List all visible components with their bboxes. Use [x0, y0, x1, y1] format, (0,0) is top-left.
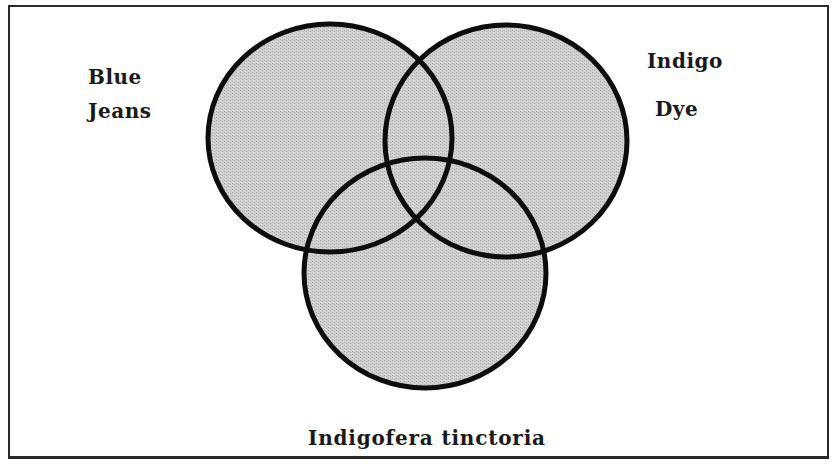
blue-jeans-label: Blue Jeans: [88, 60, 151, 128]
indigo-dye-label-line2: Dye: [647, 92, 723, 126]
indigo-dye-label: Indigo Dye: [647, 44, 723, 126]
blue-jeans-label-line1: Blue: [88, 60, 151, 94]
blue-jeans-label-line2: Jeans: [88, 94, 151, 128]
circle-fills: [208, 24, 627, 388]
indigofera-tinctoria-label: Indigofera tinctoria: [308, 421, 546, 455]
indigo-dye-label-line1: Indigo: [647, 44, 723, 78]
